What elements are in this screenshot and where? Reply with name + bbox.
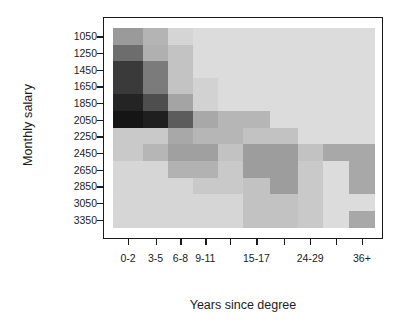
heatmap-cell: [193, 178, 243, 195]
x-axis-tick: [180, 239, 181, 245]
heatmap-cell: [218, 161, 243, 178]
x-axis-tick-label: 6-8: [173, 252, 188, 264]
heatmap-cell: [349, 161, 375, 178]
heatmap-cell: [349, 211, 375, 228]
heatmap-cell: [193, 94, 218, 111]
heatmap-cell: [298, 211, 323, 228]
heatmap-cell: [113, 94, 143, 111]
x-axis-tick-label: 0-2: [120, 252, 135, 264]
heatmap-cell: [113, 28, 143, 45]
heatmap-figure: Monthly salary 1050125014501650185020502…: [0, 0, 402, 325]
heatmap-cell: [193, 78, 218, 95]
heatmap-cell: [218, 111, 270, 128]
x-axis-tick-label: 24-29: [297, 252, 324, 264]
heatmap-cell: [168, 128, 193, 145]
y-axis-tick-label: 3350: [74, 214, 97, 226]
heatmap-cell: [298, 178, 323, 195]
x-axis-tick: [310, 239, 311, 245]
heatmap-cell: [113, 144, 143, 161]
heatmap-cell: [168, 61, 193, 78]
heatmap-cells: [113, 28, 375, 228]
heatmap-cell: [113, 161, 168, 178]
x-axis-tick-marks: [103, 239, 383, 247]
heatmap-cell: [168, 144, 218, 161]
heatmap-cell: [168, 28, 193, 45]
x-axis-tick-label: 3-5: [148, 252, 163, 264]
heatmap-cell: [270, 178, 298, 195]
heatmap-cell: [323, 178, 349, 195]
heatmap-cell: [193, 61, 375, 78]
x-axis-tick: [284, 239, 285, 245]
heatmap-cell: [143, 28, 168, 45]
y-axis-title-text: Monthly salary: [21, 84, 35, 166]
heatmap-cell: [113, 178, 193, 195]
y-axis-tick-label: 2250: [74, 130, 97, 142]
heatmap-cell: [143, 78, 168, 95]
heatmap-cell: [113, 194, 243, 211]
heatmap-cell: [298, 161, 323, 178]
y-axis-tick-label: 1850: [74, 97, 97, 109]
heatmap-cell: [243, 161, 298, 178]
x-axis-tick: [156, 239, 157, 245]
heatmap-cell: [113, 45, 143, 62]
y-axis-tick-label: 1050: [74, 30, 97, 42]
heatmap-cell: [193, 111, 218, 128]
y-axis-title: Monthly salary: [14, 0, 42, 250]
y-axis-tick-label: 3050: [74, 197, 97, 209]
heatmap-cell: [168, 78, 193, 95]
heatmap-cell: [193, 45, 375, 62]
x-axis-tick-label: 36+: [353, 252, 371, 264]
heatmap-cell: [243, 178, 271, 195]
heatmap-cell: [113, 211, 243, 228]
heatmap-cell: [243, 194, 298, 211]
x-axis-tick: [128, 239, 129, 245]
heatmap-cell: [168, 161, 218, 178]
heatmap-cell: [218, 94, 375, 111]
heatmap-cell: [193, 128, 243, 145]
heatmap-cell: [298, 194, 323, 211]
y-axis-tick-label: 1250: [74, 47, 97, 59]
y-axis-tick-label: 1650: [74, 80, 97, 92]
heatmap-cell: [143, 144, 168, 161]
heatmap-cell: [298, 144, 323, 161]
heatmap-cell: [143, 94, 168, 111]
heatmap-cell: [113, 111, 143, 128]
x-axis-tick: [230, 239, 231, 245]
heatmap-cell: [113, 61, 143, 78]
y-axis-tick-label: 1450: [74, 64, 97, 76]
heatmap-cell: [323, 144, 375, 161]
heatmap-cell: [349, 178, 375, 195]
heatmap-cell: [143, 45, 168, 62]
heatmap-cell: [298, 128, 375, 145]
heatmap-cell: [168, 94, 193, 111]
heatmap-cell: [168, 45, 193, 62]
x-axis-title: Years since degree: [103, 298, 383, 312]
y-axis-tick-labels: 1050125014501650185020502250245026502850…: [55, 17, 97, 239]
heatmap-cell: [270, 111, 375, 128]
x-axis-tick-labels: 0-23-56-89-1115-1724-2936+: [103, 252, 383, 268]
x-axis-tick: [205, 239, 206, 245]
heatmap-cell: [143, 111, 168, 128]
y-axis-tick-label: 2650: [74, 164, 97, 176]
heatmap-cell: [113, 78, 143, 95]
y-axis-tick-label: 2050: [74, 114, 97, 126]
x-axis-tick: [336, 239, 337, 245]
heatmap-cell: [168, 111, 193, 128]
x-axis-tick-label: 15-17: [243, 252, 270, 264]
heatmap-cell: [193, 28, 375, 45]
heatmap-cell: [143, 61, 168, 78]
y-axis-tick-label: 2850: [74, 180, 97, 192]
heatmap-cell: [323, 194, 375, 211]
y-axis-tick-label: 2450: [74, 147, 97, 159]
heatmap-cell: [323, 211, 349, 228]
heatmap-cell: [243, 211, 298, 228]
x-axis-tick: [362, 239, 363, 245]
heatmap-cell: [113, 128, 143, 145]
heatmap-cell: [323, 161, 349, 178]
heatmap-cell: [218, 78, 375, 95]
x-axis-tick-label: 9-11: [195, 252, 215, 264]
x-axis-tick: [256, 239, 257, 245]
heatmap-cell: [243, 144, 298, 161]
heatmap-cell: [218, 144, 243, 161]
heatmap-cell: [143, 128, 168, 145]
